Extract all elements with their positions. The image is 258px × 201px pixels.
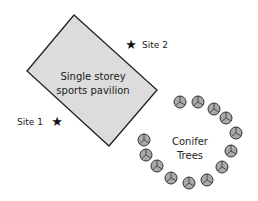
tree-icon — [183, 177, 195, 189]
site-1-marker: Site 1 ★ — [17, 114, 63, 129]
tree-icon — [216, 161, 228, 173]
tree-icon — [138, 134, 150, 146]
tree-icon — [174, 96, 186, 108]
tree-icon — [140, 149, 152, 161]
star-icon: ★ — [125, 37, 137, 52]
tree-icon — [201, 174, 213, 186]
tree-icon — [225, 145, 237, 157]
star-icon: ★ — [51, 114, 63, 129]
site-2-marker: ★ Site 2 — [125, 37, 168, 52]
pavilion-label-line1: Single storey — [60, 71, 125, 82]
tree-icon — [230, 127, 242, 139]
tree-icon — [151, 160, 163, 172]
tree-icon — [165, 172, 177, 184]
pavilion-label-line2: sports pavilion — [56, 85, 129, 96]
tree-icon — [220, 112, 232, 124]
trees-label-line1: Conifer — [172, 136, 209, 147]
site-2-label: Site 2 — [142, 40, 168, 50]
site-plan-diagram: Single storey sports pavilion ★ Site 2 S… — [0, 0, 258, 201]
site-1-label: Site 1 — [17, 117, 43, 127]
tree-icon — [208, 103, 220, 115]
tree-icon — [192, 96, 204, 108]
trees-label-line2: Trees — [176, 150, 203, 161]
